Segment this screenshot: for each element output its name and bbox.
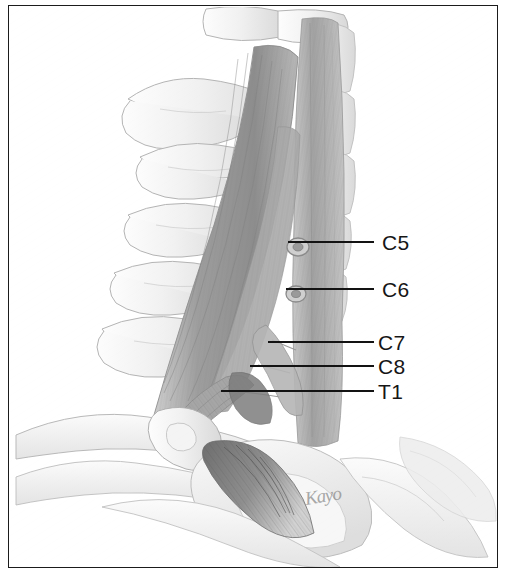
leader-line-c6 bbox=[286, 288, 374, 290]
anatomical-figure: C5 C6 C7 C8 T1 Kayo bbox=[0, 0, 511, 575]
label-c6: C6 bbox=[382, 279, 409, 300]
label-c5: C5 bbox=[382, 232, 409, 253]
label-c7: C7 bbox=[378, 332, 405, 353]
illustration-artwork bbox=[10, 7, 497, 567]
leader-line-c8 bbox=[250, 365, 374, 367]
leader-line-t1 bbox=[221, 390, 374, 392]
leader-line-c5 bbox=[288, 241, 374, 243]
anatomy-drawing bbox=[10, 7, 497, 567]
label-t1: T1 bbox=[378, 381, 403, 402]
label-c8: C8 bbox=[378, 356, 405, 377]
leader-line-c7 bbox=[268, 341, 374, 343]
